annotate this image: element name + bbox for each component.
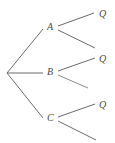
leaf-label-a-q: Q: [99, 9, 106, 19]
branch-root-to-c: [7, 73, 43, 118]
node-label-c: C: [47, 113, 54, 123]
leaf-label-c-q: Q: [99, 100, 106, 110]
tree-diagram-canvas: A B C Q Q Q: [0, 0, 115, 143]
branch-c-to-q: [58, 104, 95, 117]
branch-a-to-unlabeled: [58, 30, 95, 48]
branch-root-to-a: [7, 29, 43, 73]
branch-b-to-unlabeled: [58, 75, 88, 88]
branch-a-to-q: [58, 13, 94, 26]
branch-b-to-q: [58, 58, 95, 71]
node-label-a: A: [47, 22, 53, 32]
node-label-b: B: [47, 67, 53, 77]
branch-c-to-unlabeled: [58, 121, 96, 140]
tree-branches-group: [0, 0, 115, 143]
leaf-label-b-q: Q: [99, 54, 106, 64]
